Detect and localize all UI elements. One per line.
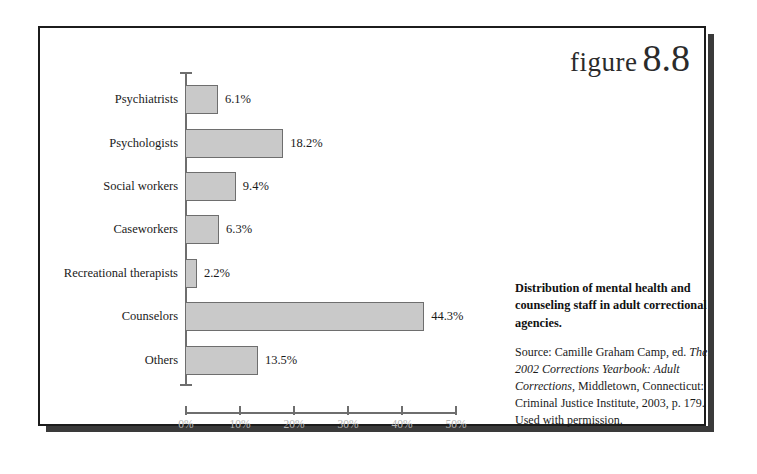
bar	[185, 172, 236, 201]
bar-value-label: 9.4%	[243, 179, 269, 194]
value-axis-tick-label: 30%	[337, 418, 358, 430]
bar-track: 2.2%	[185, 252, 510, 295]
value-axis-tick	[293, 406, 295, 415]
bar-track: 6.3%	[185, 208, 510, 251]
category-axis-cap-top	[180, 72, 192, 74]
bar-category-label: Social workers	[40, 179, 185, 194]
bar-value-label: 18.2%	[290, 136, 322, 151]
bar-category-label: Psychiatrists	[40, 92, 185, 107]
value-axis-line	[185, 412, 455, 414]
bar	[185, 302, 424, 331]
bar-category-label: Recreational therapists	[40, 266, 185, 281]
bar-row: Recreational therapists2.2%	[40, 252, 510, 295]
bar-row: Social workers9.4%	[40, 165, 510, 208]
caption-block: Distribution of mental health and counse…	[515, 280, 720, 430]
bar-category-label: Caseworkers	[40, 222, 185, 237]
caption-source-prefix: Source: Camille Graham Camp, ed.	[515, 345, 689, 359]
bar-chart: Psychiatrists6.1%Psychologists18.2%Socia…	[40, 54, 510, 414]
bar-track: 9.4%	[185, 165, 510, 208]
bar-row: Others13.5%	[40, 338, 510, 381]
value-axis-tick-label: 40%	[391, 418, 412, 430]
bar-category-label: Counselors	[40, 309, 185, 324]
caption-title: Distribution of mental health and counse…	[515, 280, 720, 332]
value-axis-tick	[401, 406, 403, 415]
figure-frame: figure 8.8 Psychiatrists6.1%Psychologist…	[38, 26, 706, 426]
bar-track: 13.5%	[185, 338, 510, 381]
bar-row: Psychologists18.2%	[40, 121, 510, 164]
figure-number-value: 8.8	[643, 36, 691, 80]
bar-rows: Psychiatrists6.1%Psychologists18.2%Socia…	[40, 78, 510, 382]
category-axis-cap-bottom	[180, 384, 192, 386]
bar-value-label: 44.3%	[431, 309, 463, 324]
bar-category-label: Others	[40, 353, 185, 368]
bar	[185, 129, 283, 158]
bar-track: 44.3%	[185, 295, 510, 338]
value-axis-tick-label: 20%	[283, 418, 304, 430]
bar-value-label: 13.5%	[265, 353, 297, 368]
bar-value-label: 2.2%	[204, 266, 230, 281]
caption-source: Source: Camille Graham Camp, ed. The 200…	[515, 344, 720, 429]
bar	[185, 85, 218, 114]
bar-value-label: 6.1%	[225, 92, 251, 107]
value-axis-tick	[455, 406, 457, 415]
value-axis-tick-label: 50%	[445, 418, 466, 430]
value-axis-tick	[185, 406, 187, 415]
bar-track: 18.2%	[185, 121, 510, 164]
bar	[185, 259, 197, 288]
bar-row: Psychiatrists6.1%	[40, 78, 510, 121]
figure-number: figure 8.8	[570, 36, 690, 80]
bar-row: Caseworkers6.3%	[40, 208, 510, 251]
figure-number-word: figure	[570, 47, 637, 78]
value-axis-tick-label: 10%	[229, 418, 250, 430]
bar-row: Counselors44.3%	[40, 295, 510, 338]
bar	[185, 215, 219, 244]
bar	[185, 346, 258, 375]
value-axis-tick	[239, 406, 241, 415]
value-axis-tick	[347, 406, 349, 415]
bar-value-label: 6.3%	[226, 222, 252, 237]
bar-category-label: Psychologists	[40, 136, 185, 151]
bar-track: 6.1%	[185, 78, 510, 121]
value-axis-tick-label: 0%	[178, 418, 193, 430]
